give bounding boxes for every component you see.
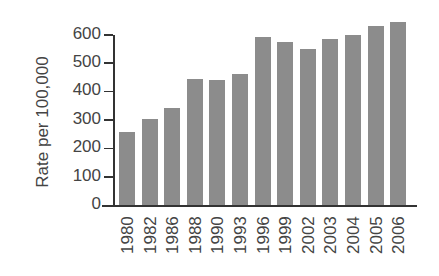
y-tick-mark xyxy=(104,62,113,64)
y-tick-mark xyxy=(104,119,113,121)
y-tick-mark xyxy=(104,205,113,207)
bar-2002 xyxy=(300,49,316,205)
x-tick-label: 2006 xyxy=(389,216,409,254)
x-tick-label: 2005 xyxy=(367,216,387,254)
bar-1996 xyxy=(255,37,271,205)
x-tick-label: 1996 xyxy=(254,216,274,254)
x-tick-label: 2003 xyxy=(321,216,341,254)
y-tick-mark xyxy=(104,34,113,36)
bar-chart: Rate per 100,000 0100200300400500600 198… xyxy=(0,0,439,276)
x-tick-label: 1993 xyxy=(231,216,251,254)
x-tick-label: 2002 xyxy=(299,216,319,254)
x-axis-line xyxy=(102,205,417,207)
y-tick-label: 100 xyxy=(61,166,101,186)
y-tick-label: 400 xyxy=(61,80,101,100)
bar-1988 xyxy=(187,79,203,205)
y-tick-label: 500 xyxy=(61,52,101,72)
x-tick-label: 1988 xyxy=(186,216,206,254)
y-tick-mark xyxy=(104,91,113,93)
y-tick-label: 600 xyxy=(61,24,101,44)
y-tick-label: 300 xyxy=(61,109,101,129)
x-tick-label: 1990 xyxy=(208,216,228,254)
x-tick-label: 1980 xyxy=(118,216,138,254)
y-tick-mark xyxy=(104,148,113,150)
y-tick-mark xyxy=(104,176,113,178)
y-axis-label: Rate per 100,000 xyxy=(33,56,53,187)
bar-2003 xyxy=(322,39,338,205)
bar-1990 xyxy=(209,80,225,205)
bar-1982 xyxy=(142,119,158,205)
y-tick-label: 200 xyxy=(61,137,101,157)
bar-2006 xyxy=(390,22,406,205)
bar-1999 xyxy=(277,42,293,205)
y-tick-label: 0 xyxy=(61,194,101,214)
x-tick-label: 1999 xyxy=(276,216,296,254)
bar-2004 xyxy=(345,35,361,206)
x-tick-label: 1982 xyxy=(141,216,161,254)
x-tick-label: 1986 xyxy=(163,216,183,254)
x-tick-label: 2004 xyxy=(344,216,364,254)
y-axis-line xyxy=(113,35,115,206)
bar-1986 xyxy=(164,108,180,205)
bar-2005 xyxy=(368,26,384,205)
bar-1993 xyxy=(232,74,248,205)
bar-1980 xyxy=(119,132,135,205)
